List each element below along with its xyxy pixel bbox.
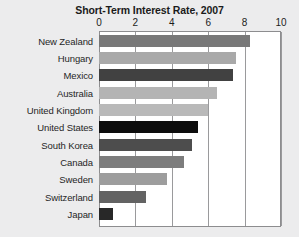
gridline (281, 32, 282, 226)
bar (99, 191, 146, 203)
bar (99, 69, 233, 81)
category-label: Hungary (58, 53, 93, 64)
x-tick-label: 0 (96, 17, 102, 28)
bar (99, 104, 208, 116)
category-label: New Zealand (38, 36, 93, 47)
category-label: United States (37, 122, 93, 133)
bar (99, 121, 198, 133)
category-label: Sweden (59, 174, 93, 185)
category-label: United Kingdom (27, 105, 93, 116)
x-tick-label: 6 (205, 17, 211, 28)
bar (99, 173, 167, 185)
category-label: Australia (57, 88, 93, 99)
category-label: Canada (60, 157, 93, 168)
bar (99, 35, 250, 47)
x-tick-label: 2 (133, 17, 139, 28)
bar (99, 139, 192, 151)
bar-chart: Short-Term Interest Rate, 2007 0246810 N… (0, 0, 299, 237)
bar (99, 87, 217, 99)
x-tick-label: 8 (242, 17, 248, 28)
category-label: Japan (68, 209, 93, 220)
x-tick-label: 10 (275, 17, 286, 28)
y-axis-category-labels: New ZealandHungaryMexicoAustraliaUnited … (0, 31, 97, 227)
x-tick-label: 4 (169, 17, 175, 28)
bar (99, 156, 184, 168)
bar (99, 208, 113, 220)
x-axis-tick-labels: 0246810 (0, 17, 299, 31)
category-label: Switzerland (45, 192, 93, 203)
category-label: Mexico (64, 70, 94, 81)
bar (99, 52, 236, 64)
category-label: South Korea (41, 140, 93, 151)
chart-title: Short-Term Interest Rate, 2007 (0, 4, 299, 16)
bars-layer (99, 31, 281, 227)
